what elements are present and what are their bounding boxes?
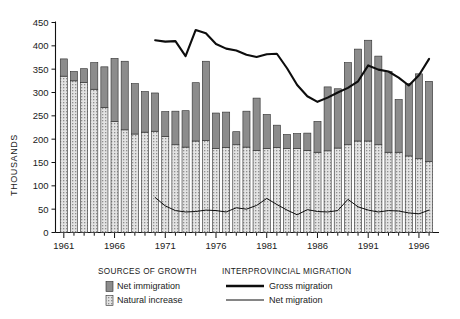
bar-segment-natural-increase <box>182 147 189 232</box>
bar-segment-natural-increase <box>70 81 77 233</box>
bar-segment-net-immigration <box>212 113 219 148</box>
y-tick-label: 300 <box>33 87 49 98</box>
migration-chart: 050100150200250300350400450 196119661971… <box>0 0 460 319</box>
bar-segment-natural-increase <box>243 147 250 232</box>
bar-segment-net-immigration <box>415 74 422 159</box>
bar-segment-net-immigration <box>131 84 138 134</box>
bar-segment-net-immigration <box>273 125 280 147</box>
x-tick-label: 1986 <box>307 240 328 251</box>
bar-segment-natural-increase <box>192 141 199 232</box>
bar-segment-net-immigration <box>60 59 67 76</box>
bar-segment-net-immigration <box>314 121 321 152</box>
bar-segment-natural-increase <box>405 156 412 233</box>
bar-segment-net-immigration <box>202 61 209 140</box>
legend-item-label: Natural increase <box>117 295 183 305</box>
y-tick-label: 400 <box>33 40 49 51</box>
x-tick-label: 1976 <box>205 240 226 251</box>
bar-segment-natural-increase <box>152 131 159 232</box>
bar-segment-natural-increase <box>121 130 128 233</box>
bar-segment-natural-increase <box>415 159 422 233</box>
y-axis-title: THOUSANDS <box>9 134 19 196</box>
x-tick-label: 1966 <box>104 240 125 251</box>
bar-segment-net-immigration <box>355 49 362 141</box>
x-tick-label: 1991 <box>358 240 379 251</box>
bar-segment-natural-increase <box>111 121 118 232</box>
bar-segment-natural-increase <box>385 152 392 232</box>
legend-swatch-natural-increase <box>106 296 113 306</box>
bar-segment-net-immigration <box>344 63 351 145</box>
bar-segment-net-immigration <box>304 133 311 150</box>
x-tick-label: 1971 <box>155 240 176 251</box>
legend-item-label: Gross migration <box>269 281 333 291</box>
y-tick-label: 450 <box>33 17 49 28</box>
bar-segment-natural-increase <box>395 152 402 232</box>
legend-group-title: SOURCES OF GROWTH <box>98 267 197 276</box>
bar-segment-natural-increase <box>81 83 88 233</box>
bar-segment-net-immigration <box>81 69 88 83</box>
bar-segment-net-immigration <box>263 114 270 148</box>
x-axis: 19611966197119761981198619911996 <box>53 233 439 251</box>
legend: SOURCES OF GROWTHNet immigrationNatural … <box>98 267 351 306</box>
y-tick-label: 250 <box>33 110 49 121</box>
bar-segment-natural-increase <box>212 149 219 233</box>
bar-segment-net-immigration <box>111 58 118 121</box>
bar-segment-net-immigration <box>294 134 301 149</box>
bar-segment-natural-increase <box>141 132 148 232</box>
bar-segment-natural-increase <box>162 136 169 232</box>
bar-segment-natural-increase <box>304 150 311 232</box>
bar-segment-natural-increase <box>263 149 270 233</box>
bar-segment-natural-increase <box>355 141 362 232</box>
bar-segment-net-immigration <box>233 132 240 145</box>
bar-segment-natural-increase <box>314 152 321 232</box>
bar-segment-natural-increase <box>233 145 240 233</box>
bar-segment-natural-increase <box>365 141 372 232</box>
bar-segment-natural-increase <box>131 134 138 232</box>
bar-segment-net-immigration <box>91 63 98 90</box>
bar-segment-net-immigration <box>121 61 128 130</box>
x-tick-label: 1961 <box>53 240 74 251</box>
bar-segment-natural-increase <box>202 141 209 233</box>
bar-segment-net-immigration <box>172 111 179 145</box>
y-tick-label: 150 <box>33 157 49 168</box>
bar-segment-natural-increase <box>273 148 280 233</box>
bar-segment-natural-increase <box>101 107 108 232</box>
bar-segment-net-immigration <box>385 72 392 153</box>
y-tick-label: 200 <box>33 134 49 145</box>
bar-segment-net-immigration <box>395 100 402 153</box>
bar-segment-natural-increase <box>334 148 341 232</box>
bar-segment-net-immigration <box>192 83 199 141</box>
x-tick-label: 1996 <box>408 240 429 251</box>
bar-segment-net-immigration <box>162 112 169 137</box>
bar-segment-net-immigration <box>182 111 189 147</box>
bar-segment-net-immigration <box>365 40 372 141</box>
bar-segment-net-immigration <box>70 72 77 81</box>
bar-segment-net-immigration <box>426 81 433 161</box>
bar-segment-net-immigration <box>253 98 260 150</box>
y-tick-label: 50 <box>38 204 49 215</box>
bar-segment-natural-increase <box>344 145 351 233</box>
bar-segment-natural-increase <box>91 89 98 232</box>
y-tick-label: 0 <box>43 227 48 238</box>
bar-segment-net-immigration <box>334 89 341 148</box>
bar-segment-natural-increase <box>283 149 290 233</box>
bar-segment-net-immigration <box>223 112 230 147</box>
bar-segment-net-immigration <box>101 67 108 108</box>
bar-segment-net-immigration <box>152 93 159 131</box>
bar-segment-natural-increase <box>324 151 331 233</box>
bar-segment-natural-increase <box>426 162 433 233</box>
y-tick-label: 350 <box>33 64 49 75</box>
bar-segment-net-immigration <box>243 111 250 147</box>
legend-item-label: Net migration <box>269 295 323 305</box>
bar-segment-natural-increase <box>294 149 301 233</box>
bar-segment-natural-increase <box>253 150 260 232</box>
legend-group-title: INTERPROVINCIAL MIGRATION <box>222 267 351 276</box>
legend-item-label: Net immigration <box>117 281 180 291</box>
bar-segment-natural-increase <box>172 145 179 233</box>
bar-segment-net-immigration <box>141 92 148 133</box>
chart-canvas: 050100150200250300350400450 196119661971… <box>0 0 460 319</box>
bar-segment-natural-increase <box>375 145 382 233</box>
x-tick-label: 1981 <box>256 240 277 251</box>
bar-segment-natural-increase <box>223 148 230 233</box>
y-tick-label: 100 <box>33 180 49 191</box>
y-axis: 050100150200250300350400450 <box>33 17 56 238</box>
